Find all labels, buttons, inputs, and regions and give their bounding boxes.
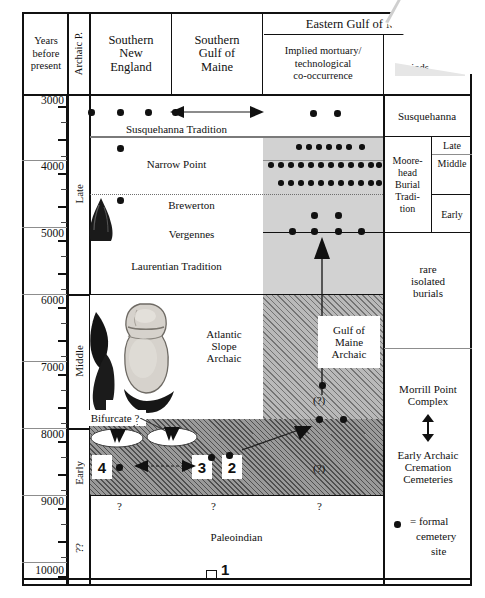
cemetery-dot bbox=[88, 109, 95, 116]
cremation-line3: Cemeteries bbox=[403, 473, 452, 485]
egm-dot-row-2 bbox=[263, 162, 383, 172]
period-band-unknown-label: ?? bbox=[73, 543, 85, 553]
year-tick-8000 bbox=[58, 441, 67, 443]
year-tick-minor-5250 bbox=[61, 256, 67, 257]
divider-sne-sgm bbox=[171, 12, 172, 94]
moorehead-line3: Burial bbox=[395, 179, 420, 191]
header-sgm-line2: Gulf of bbox=[199, 47, 235, 61]
artifact-group-atlantic-slope bbox=[82, 296, 190, 418]
cemetery-dot bbox=[298, 180, 304, 186]
header-southern-new-england: Southern New England bbox=[90, 16, 172, 92]
sne-callout-3-label: 3 bbox=[198, 459, 206, 476]
moorehead-line1: Moore- bbox=[393, 155, 423, 167]
year-tick-4500 bbox=[58, 206, 67, 208]
year-label-9000: 9000 bbox=[22, 495, 64, 507]
cemetery-dot bbox=[308, 162, 314, 168]
cremation-line2: Cremation bbox=[405, 461, 451, 473]
year-tick-minor-4750 bbox=[61, 222, 67, 223]
cemetery-dot bbox=[359, 144, 365, 150]
cemetery-dot bbox=[316, 416, 323, 423]
gom-question-mid: (?) bbox=[313, 394, 325, 406]
sne-narrow-point-label: Narrow Point bbox=[147, 158, 207, 170]
header-egm-title-label: Eastern Gulf of M bbox=[306, 18, 397, 32]
year-tick-3500 bbox=[58, 139, 67, 141]
cemetery-dot bbox=[278, 180, 284, 186]
sne-brewerton-label: Brewerton bbox=[168, 199, 214, 211]
rule-susquehanna-bottom bbox=[90, 136, 383, 138]
header-sgm-line3: Maine bbox=[201, 61, 233, 75]
period-band-late-label: Late bbox=[73, 184, 85, 204]
sne-laurentian-tradition: Laurentian Tradition bbox=[90, 259, 263, 273]
sne-narrow-point: Narrow Point bbox=[90, 157, 263, 171]
year-tick-4000 bbox=[58, 173, 67, 175]
cemetery-dot bbox=[348, 162, 354, 168]
cemetery-dot bbox=[289, 228, 296, 235]
mortuary-subphase-early-label: Early bbox=[441, 209, 463, 221]
mortuary-moorehead-burial-tradition: Moore- head Burial Tradi- tion bbox=[384, 140, 431, 230]
year-rule-4000 bbox=[22, 160, 67, 161]
header-egm-line1: Implied mortuary/ bbox=[285, 45, 362, 58]
gom-line3: Archaic bbox=[332, 348, 367, 360]
sne-question-2: ? bbox=[211, 500, 216, 512]
period-band-early-label: Early bbox=[73, 461, 85, 485]
mortuary-subphase-middle-label: Middle bbox=[438, 158, 467, 170]
susquehanna-spread-arrow bbox=[170, 103, 264, 121]
gom-line1: Gulf of bbox=[333, 324, 365, 336]
year-tick-9500 bbox=[58, 541, 67, 543]
egm-dot-row-4 bbox=[263, 212, 383, 222]
rule-early-archaic-bottom bbox=[90, 495, 383, 496]
sne-callout-4: 4 bbox=[92, 455, 112, 479]
sne-atlantic-line2: Slope bbox=[211, 340, 236, 352]
morrill-line1: Morrill Point bbox=[399, 383, 457, 395]
year-tick-minor-4250 bbox=[61, 189, 67, 190]
year-tick-minor-6750 bbox=[61, 356, 67, 357]
year-tick-8500 bbox=[58, 474, 67, 476]
year-rule-6000 bbox=[22, 294, 67, 295]
period-band-late: Late bbox=[68, 94, 89, 294]
chronology-chart: Years before present Archaic P. Southern… bbox=[0, 0, 485, 598]
year-tick-minor-8750 bbox=[61, 490, 67, 491]
mortuary-susquehanna: Susquehanna bbox=[384, 108, 470, 124]
egm-dot-row-1 bbox=[263, 144, 383, 154]
year-rule-8000 bbox=[22, 428, 67, 429]
cemetery-dot bbox=[288, 180, 294, 186]
header-years-line1: Years bbox=[34, 35, 57, 48]
header-egm-title-rule bbox=[264, 34, 424, 35]
mortuary-morrill-point-complex: Morrill Point Complex bbox=[384, 380, 472, 410]
divider-egm-mortuary-header bbox=[383, 34, 384, 94]
callout-arrow-left bbox=[134, 459, 196, 473]
egm-dot-row-3 bbox=[263, 180, 383, 190]
cemetery-dot bbox=[296, 144, 302, 150]
morrill-line2: Complex bbox=[408, 395, 448, 407]
year-tick-minor-5750 bbox=[61, 289, 67, 290]
moorehead-line5: tion bbox=[400, 203, 416, 215]
mortuary-rule-rare-bottom bbox=[384, 348, 472, 349]
sne-callout-4-label: 4 bbox=[98, 459, 106, 476]
gulf-of-maine-archaic-label-box: Gulf of Maine Archaic bbox=[318, 316, 380, 368]
divider-sgm-egm bbox=[262, 12, 263, 94]
header-egm-line3: co-occurrence bbox=[293, 70, 352, 83]
cemetery-dot bbox=[358, 228, 365, 235]
cemetery-dot bbox=[310, 110, 317, 117]
cemetery-dot bbox=[145, 109, 152, 116]
cemetery-dot bbox=[319, 382, 326, 389]
year-tick-6000 bbox=[58, 307, 67, 309]
sne-callout-2: 2 bbox=[222, 455, 242, 479]
year-tick-minor-8250 bbox=[61, 457, 67, 458]
sne-paleoindian: Paleoindian bbox=[90, 530, 383, 544]
sne-atlantic-line3: Archaic bbox=[207, 352, 242, 364]
cemetery-dot bbox=[311, 228, 318, 235]
cemetery-dot bbox=[358, 180, 364, 186]
cemetery-dot bbox=[268, 162, 274, 168]
year-rule-5000 bbox=[22, 227, 67, 228]
cemetery-dot bbox=[117, 145, 124, 152]
sne-vergennes-label: Vergennes bbox=[169, 228, 215, 240]
cemetery-dot bbox=[208, 454, 215, 461]
year-tick-7000 bbox=[58, 374, 67, 376]
rare-line2: isolated bbox=[411, 275, 445, 287]
header-sne-line2: New bbox=[119, 47, 143, 61]
mortuary-subphase-late-label: Late bbox=[443, 140, 461, 152]
header-years-line2: before bbox=[33, 48, 60, 61]
rule-laurentian-bottom bbox=[90, 294, 383, 295]
cemetery-dot bbox=[311, 212, 318, 219]
